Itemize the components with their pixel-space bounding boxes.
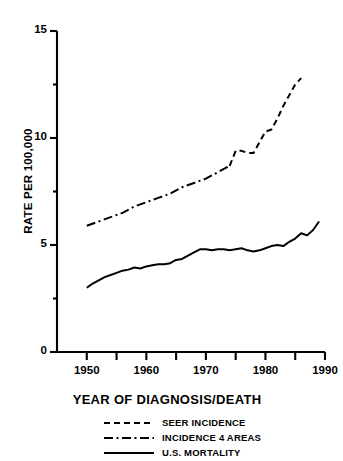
y-tick-label: 10 [5,130,47,142]
x-tick-label: 1960 [121,364,171,376]
x-axis-title: YEAR OF DIAGNOSIS/DEATH [0,392,334,407]
series-line-incidence-4-areas [87,166,230,226]
y-tick-label: 0 [5,344,47,356]
series-line-u-s-mortality [87,221,319,287]
legend-item: SEER INCIDENCE [0,415,334,430]
legend-item: U.S. MORTALITY [0,445,334,460]
legend-label: INCIDENCE 4 AREAS [162,432,261,443]
x-tick-label: 1950 [62,364,112,376]
chart-legend: SEER INCIDENCEINCIDENCE 4 AREASU.S. MORT… [0,415,334,460]
axes [57,31,325,352]
y-tick-label: 15 [5,23,47,35]
plot-area [0,0,334,400]
y-tick-label: 5 [5,237,47,249]
legend-label: U.S. MORTALITY [162,447,241,458]
legend-swatch-dash-dot-icon [103,433,155,443]
x-tick-label: 1990 [300,364,343,376]
x-tick-label: 1980 [240,364,290,376]
legend-swatch-dashed-icon [103,418,155,428]
x-tick-label: 1970 [181,364,231,376]
x-axis-ticks [87,352,325,360]
legend-item: INCIDENCE 4 AREAS [0,430,334,445]
data-series-group [87,78,319,288]
series-line-seer-incidence [230,78,301,166]
legend-label: SEER INCIDENCE [162,417,246,428]
legend-swatch-solid-icon [103,448,155,458]
